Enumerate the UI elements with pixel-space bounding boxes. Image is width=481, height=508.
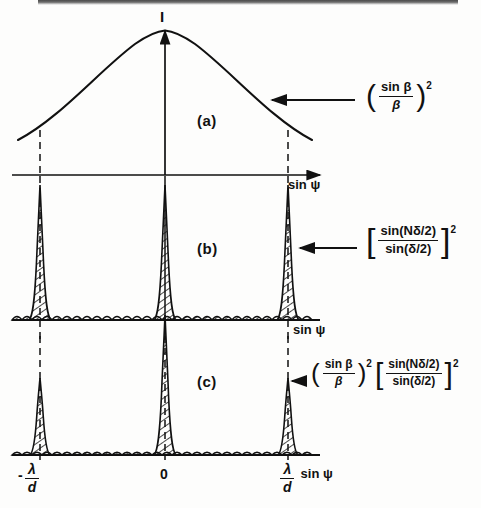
x-tick-minus-lambda-over-d: - λ d xyxy=(18,462,39,496)
x-tick-plus-lambda-over-d: λ d sin ψ xyxy=(280,462,333,496)
denominator: β xyxy=(333,374,344,389)
panel-b-peak-plus-first-order xyxy=(277,185,299,320)
x-tick-zero: 0 xyxy=(160,466,168,482)
second-exponent: 2 xyxy=(453,359,459,370)
panel-c-peak-zeroth-order xyxy=(154,315,176,455)
bracket-close: ] xyxy=(445,362,453,385)
denominator: sin(δ/2) xyxy=(383,241,433,257)
numerator: sin β xyxy=(379,80,413,97)
minus-sign: - xyxy=(18,467,23,483)
first-exponent: 2 xyxy=(366,359,372,370)
denominator: sin(δ/2) xyxy=(391,374,438,389)
exponent: 2 xyxy=(426,81,432,92)
fraction: sin(Nδ/2) sin(δ/2) xyxy=(375,224,441,257)
panel-c-peak-plus-first-order xyxy=(278,378,298,455)
panel-c-axis-label: sin ψ xyxy=(301,466,333,481)
panel-b-group xyxy=(12,176,357,340)
bracket-close: ] xyxy=(441,227,450,254)
panel-b-tag: (b) xyxy=(197,240,218,257)
panel-a-tag: (a) xyxy=(197,112,217,129)
paren-close: ) xyxy=(358,363,367,384)
bracket-open: [ xyxy=(366,227,375,254)
exponent: 2 xyxy=(450,225,456,236)
numerator: sin(Nδ/2) xyxy=(386,358,441,374)
denominator: β xyxy=(390,97,402,113)
numerator: λ xyxy=(25,462,39,479)
bracket-open: [ xyxy=(375,362,383,385)
fraction: sin β β xyxy=(376,80,416,113)
paren-open: ( xyxy=(311,363,320,384)
denominator: d xyxy=(280,479,295,495)
numerator: λ xyxy=(280,462,294,479)
tick-fraction: λ d xyxy=(280,462,295,496)
panel-c-group xyxy=(12,315,320,460)
numerator: sin β xyxy=(323,358,355,374)
panel-a-formula: ( sin β β ) 2 xyxy=(366,80,432,113)
panel-c-tag: (c) xyxy=(197,373,217,390)
paren-open: ( xyxy=(366,84,376,109)
panel-a-axis-label: sin ψ xyxy=(288,177,320,192)
panel-a-group xyxy=(12,31,355,176)
panel-c-peak-minus-first-order xyxy=(30,378,50,455)
numerator: sin(Nδ/2) xyxy=(378,224,438,241)
panel-c-formula: ( sin β β ) 2 [ sin(Nδ/2) sin(δ/2) ] 2 xyxy=(311,358,458,389)
second-fraction: sin(Nδ/2) sin(δ/2) xyxy=(383,358,444,389)
denominator: d xyxy=(25,479,40,495)
first-fraction: sin β β xyxy=(320,358,358,389)
y-axis-label: I xyxy=(160,8,164,25)
tick-fraction: λ d xyxy=(25,462,40,496)
panel-b-peak-minus-first-order xyxy=(29,185,51,320)
panel-b-peak-zeroth-order xyxy=(154,185,176,320)
panel-b-axis-label: sin ψ xyxy=(293,322,325,337)
panel-b-formula: [ sin(Nδ/2) sin(δ/2) ] 2 xyxy=(366,224,456,257)
paren-close: ) xyxy=(416,84,426,109)
